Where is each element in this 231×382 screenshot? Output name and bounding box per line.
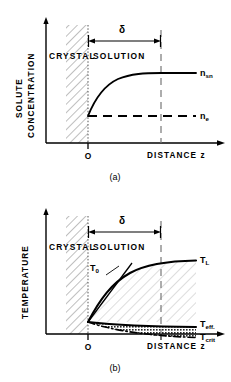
region-label-solution-a: SOLUTION [93, 51, 145, 61]
origin-label-a: O [85, 151, 92, 161]
curve-label-teff: Teff. [200, 319, 215, 330]
panel-b-svg: δ T0 CRYSTAL SOLUTION TEMPERATURE DISTAN… [0, 191, 231, 382]
y-axis-label-a-line1: SOLUTE [15, 78, 24, 118]
curve-label-tl: TL [200, 255, 210, 266]
delta-symbol-b: δ [119, 215, 125, 226]
x-axis-arrow-b [217, 331, 225, 336]
crystal-region-a [66, 25, 88, 143]
delta-symbol-a: δ [119, 24, 125, 35]
curve-label-tl-sub: L [206, 259, 210, 266]
region-label-crystal-a: CRYSTAL [49, 51, 96, 61]
region-label-solution-b: SOLUTION [93, 242, 145, 252]
y-axis-label-b: TEMPERATURE [21, 245, 30, 319]
curve-label-teff-sub: eff. [206, 323, 216, 330]
y-axis-label-a-line2: CONCENTRATION [27, 52, 36, 138]
y-axis-arrow-a [43, 17, 48, 24]
panel-caption-a: (a) [110, 172, 121, 182]
curve-label-t0-sub: 0 [96, 267, 100, 274]
curve-label-ne-sub: e [206, 115, 210, 122]
panel-caption-b: (b) [110, 363, 121, 373]
x-axis-arrow-a [217, 140, 225, 145]
region-label-crystal-b: CRYSTAL [49, 242, 96, 252]
x-axis-label-b: DISTANCE z [147, 342, 206, 351]
panel-a-solute-concentration: δ CRYSTAL SOLUTION SOLUTE CONCENTRATION … [0, 0, 231, 191]
panel-a-svg: δ CRYSTAL SOLUTION SOLUTE CONCENTRATION … [0, 0, 231, 191]
x-axis-label-a: DISTANCE z [147, 151, 206, 160]
curve-label-tcrit-sub: crit [206, 336, 216, 343]
curve-label-nsn: nsn [200, 68, 213, 79]
curve-nsn [88, 73, 196, 116]
supersaturation-zone [88, 251, 200, 331]
origin-label-b: O [85, 342, 92, 352]
y-axis-arrow-b [43, 208, 48, 215]
t0-leader-line [106, 266, 119, 275]
curve-label-nsn-sub: sn [206, 72, 213, 79]
curve-label-ne: ne [200, 111, 210, 122]
crystal-region-b [66, 216, 88, 334]
curve-label-t0: T0 [90, 263, 100, 274]
panel-b-temperature: δ T0 CRYSTAL SOLUTION TEMPERATURE DISTAN… [0, 191, 231, 382]
